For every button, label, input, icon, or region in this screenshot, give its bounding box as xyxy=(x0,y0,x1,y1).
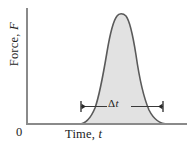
x-axis-label: Time, t xyxy=(65,128,102,141)
delta-t-left-arrowhead xyxy=(82,104,87,109)
impulse-area-fill xyxy=(79,14,168,124)
origin-label: 0 xyxy=(16,126,22,139)
force-time-figure: Force, F Time, t 0 Δt xyxy=(0,0,192,147)
delta-variable: t xyxy=(116,97,120,109)
y-axis-label: Force, F xyxy=(8,14,21,74)
delta-t-label: Δt xyxy=(107,98,120,109)
delta-t-right-arrowhead xyxy=(158,104,163,109)
impulse-plot xyxy=(0,0,192,147)
y-axis-label-text: Force, xyxy=(7,30,21,66)
y-axis-label-symbol: F xyxy=(7,22,21,30)
x-axis-label-symbol: t xyxy=(98,127,102,141)
delta-symbol: Δ xyxy=(108,97,116,109)
x-axis-label-text: Time, xyxy=(65,127,98,141)
